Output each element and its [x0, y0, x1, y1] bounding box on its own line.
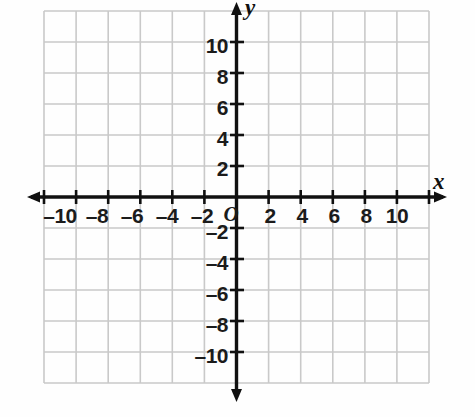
x-tick-label: –10 [43, 205, 77, 226]
y-tick-label: –4 [206, 252, 228, 273]
x-tick-label: 8 [360, 205, 371, 226]
y-axis-label: y [245, 0, 255, 19]
x-tick-label: 2 [264, 205, 275, 226]
y-tick-label: 10 [206, 35, 228, 56]
x-tick-label: –6 [121, 205, 143, 226]
y-tick-label: –10 [194, 345, 228, 366]
y-tick-label: 4 [217, 128, 228, 149]
y-tick-label: –6 [206, 283, 228, 304]
x-tick-label: 6 [328, 205, 339, 226]
coordinate-plane: –10 –8 –6 –4 –2 2 4 6 8 10 10 8 6 4 2 –2… [0, 0, 475, 417]
x-tick-label: –8 [86, 205, 108, 226]
y-tick-label: 2 [217, 158, 228, 179]
x-tick-label: 4 [296, 205, 307, 226]
origin-label: O [223, 204, 238, 225]
x-axis-label: x [433, 170, 445, 193]
y-tick-label: 6 [217, 97, 228, 118]
x-tick-label: 10 [386, 205, 408, 226]
y-tick-label: 8 [217, 66, 228, 87]
x-tick-label: –4 [156, 205, 178, 226]
y-tick-label: –8 [206, 314, 228, 335]
